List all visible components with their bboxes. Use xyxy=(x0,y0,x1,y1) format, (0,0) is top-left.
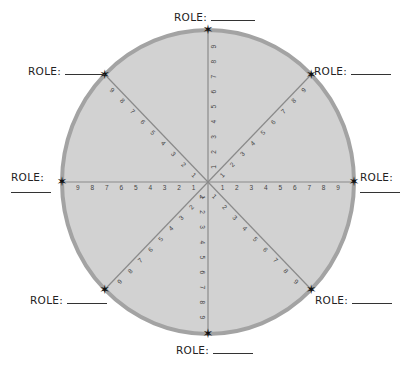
tick-number: 8 xyxy=(322,184,326,191)
role-label-top-right[interactable]: ROLE: xyxy=(314,65,391,77)
role-blank-line[interactable] xyxy=(67,302,107,304)
role-blank-line[interactable] xyxy=(11,191,51,193)
tick-number: 3 xyxy=(210,135,217,139)
star-marker-icon: ✶ xyxy=(203,22,214,37)
tick-number: 2 xyxy=(210,150,217,154)
tick-number: 7 xyxy=(307,184,311,191)
tick-number: 7 xyxy=(105,184,109,191)
tick-number: 9 xyxy=(210,44,217,48)
tick-number: 6 xyxy=(119,184,123,191)
star-marker-icon: ✶ xyxy=(349,174,360,189)
role-label-left[interactable]: ROLE: xyxy=(11,171,51,193)
tick-number: 4 xyxy=(199,240,206,244)
role-blank-line[interactable] xyxy=(213,352,253,354)
tick-number: 4 xyxy=(264,184,268,191)
tick-number: 4 xyxy=(210,120,217,124)
role-blank-line[interactable] xyxy=(352,302,392,304)
tick-number: 6 xyxy=(293,184,297,191)
tick-number: 6 xyxy=(199,270,206,274)
tick-number: 9 xyxy=(199,316,206,320)
tick-number: 9 xyxy=(336,184,340,191)
role-blank-line[interactable] xyxy=(211,19,255,21)
tick-number: 3 xyxy=(250,184,254,191)
tick-number: 1 xyxy=(210,165,217,169)
role-label-top[interactable]: ROLE: xyxy=(174,11,255,23)
role-blank-line[interactable] xyxy=(351,73,391,75)
role-wheel-diagram: 1234567891234567891234567891234567891234… xyxy=(0,0,411,365)
tick-number: 3 xyxy=(199,225,206,229)
role-label-top-left[interactable]: ROLE: xyxy=(28,65,105,77)
star-marker-icon: ✶ xyxy=(203,326,214,341)
role-blank-line[interactable] xyxy=(360,191,400,193)
role-label-bottom[interactable]: ROLE: xyxy=(176,344,253,356)
tick-number: 5 xyxy=(210,105,217,109)
role-label-bottom-right[interactable]: ROLE: xyxy=(315,294,392,306)
role-label-bottom-left[interactable]: ROLE: xyxy=(30,294,107,306)
tick-number: 7 xyxy=(199,285,206,289)
tick-number: 2 xyxy=(177,184,181,191)
tick-number: 2 xyxy=(199,210,206,214)
role-blank-line[interactable] xyxy=(65,73,105,75)
tick-number: 5 xyxy=(199,255,206,259)
tick-number: 9 xyxy=(76,184,80,191)
tick-number: 3 xyxy=(163,184,167,191)
tick-number: 5 xyxy=(278,184,282,191)
tick-number: 8 xyxy=(210,59,217,63)
tick-number: 5 xyxy=(134,184,138,191)
tick-number: 6 xyxy=(210,90,217,94)
tick-number: 4 xyxy=(148,184,152,191)
tick-number: 1 xyxy=(221,184,225,191)
tick-number: 8 xyxy=(91,184,95,191)
star-marker-icon: ✶ xyxy=(57,174,68,189)
tick-number: 2 xyxy=(235,184,239,191)
role-label-right[interactable]: ROLE: xyxy=(360,171,400,193)
tick-number: 8 xyxy=(199,301,206,305)
tick-number: 1 xyxy=(192,184,196,191)
tick-number: 7 xyxy=(210,75,217,79)
